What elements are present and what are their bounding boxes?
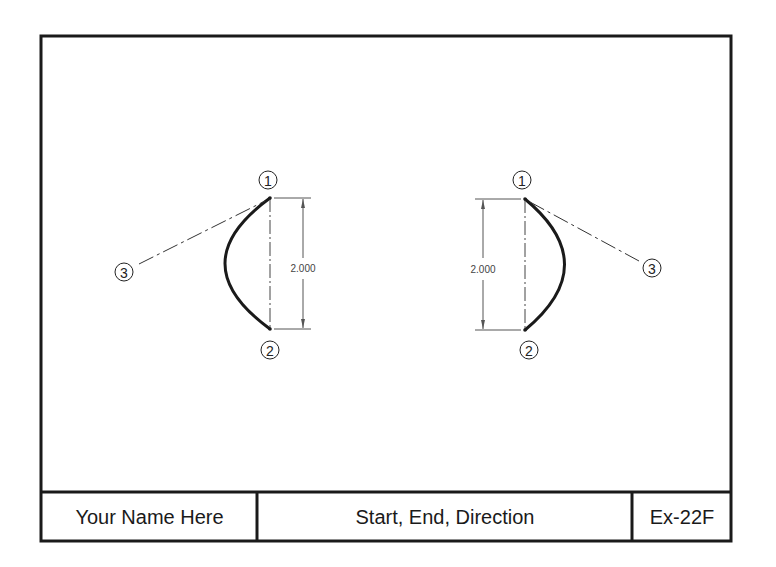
title-block-name: Your Name Here [43,493,256,541]
right-arrow-down-icon [481,320,485,329]
right-balloon-3: 3 [643,259,661,277]
left-view: 2.000 1 2 3 [115,171,316,359]
left-balloon-1: 1 [259,171,277,189]
left-point-1-marker [268,196,272,200]
svg-text:1: 1 [264,173,272,189]
right-point-2-marker [523,328,527,332]
sheet-border [41,36,731,541]
title-block-exercise: Ex-22F [634,493,730,541]
svg-text:1: 1 [518,173,526,189]
right-balloon-2: 2 [520,341,538,359]
left-balloon-3: 3 [115,263,133,281]
right-arrow-up-icon [481,200,485,209]
svg-text:3: 3 [120,265,128,281]
right-point-1-marker [523,197,527,201]
right-arc [525,199,565,330]
right-direction-line [530,202,639,261]
left-direction-line [139,201,265,264]
left-balloon-2: 2 [261,341,279,359]
right-balloon-1: 1 [513,171,531,189]
svg-text:3: 3 [648,261,656,277]
left-point-2-marker [268,327,272,331]
left-arrow-down-icon [301,319,305,328]
title-block-title: Start, End, Direction [259,493,631,541]
right-view: 2.000 1 2 3 [470,171,661,359]
left-arrow-up-icon [301,199,305,208]
svg-text:2: 2 [525,343,533,359]
svg-text:2: 2 [266,343,274,359]
left-dimension-text: 2.000 [290,263,315,274]
right-dimension-text: 2.000 [470,264,495,275]
drawing-sheet: 2.000 1 2 3 2.000 1 [0,0,776,567]
